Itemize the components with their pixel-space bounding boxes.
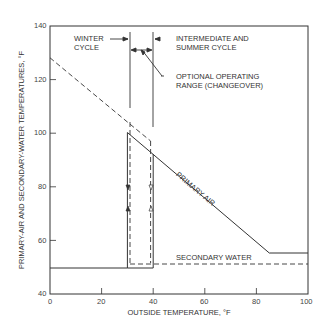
- chart-canvas: [0, 0, 328, 329]
- x-tick-60: 60: [200, 297, 208, 306]
- x-axis-label: OUTSIDE TEMPERATURE, °F: [127, 308, 230, 317]
- x-tick-40: 40: [149, 297, 157, 306]
- winter-cycle-label: WINTER CYCLE: [74, 35, 104, 52]
- summer-cycle-label: INTERMEDIATE AND SUMMER CYCLE: [176, 35, 249, 52]
- x-tick-20: 20: [97, 297, 105, 306]
- x-tick-100: 100: [300, 297, 313, 306]
- y-tick-40: 40: [38, 289, 46, 298]
- summer-line-2: SUMMER CYCLE: [176, 44, 249, 53]
- y-tick-140: 140: [34, 21, 47, 30]
- primary-air-dashed-line: [50, 58, 151, 141]
- optional-range-label: OPTIONAL OPERATING RANGE (CHANGEOVER): [176, 73, 263, 90]
- x-tick-80: 80: [252, 297, 260, 306]
- winter-line-2: CYCLE: [74, 44, 104, 53]
- y-tick-80: 80: [38, 182, 46, 191]
- y-axis-label: PRIMARY-AIR AND SECONDARY-WATER TEMPERAT…: [17, 51, 26, 269]
- y-axis-ticks: [50, 80, 56, 241]
- secondary-water-label: SECONDARY WATER: [176, 254, 252, 263]
- primary-air-line: [50, 133, 308, 269]
- x-tick-0: 0: [48, 297, 52, 306]
- x-axis-ticks: [102, 288, 257, 294]
- y-tick-100: 100: [34, 128, 47, 137]
- optional-line-2: RANGE (CHANGEOVER): [176, 82, 263, 91]
- y-tick-120: 120: [34, 75, 47, 84]
- cycle-arrows: [110, 37, 164, 76]
- y-tick-60: 60: [38, 236, 46, 245]
